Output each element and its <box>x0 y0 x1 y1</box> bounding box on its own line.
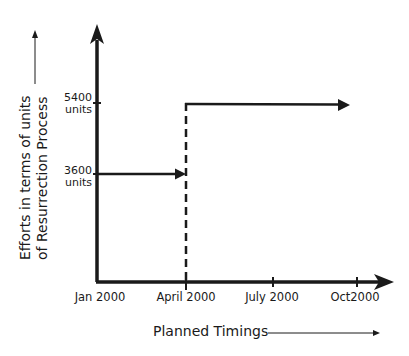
y-tick-unit-3600: units <box>65 176 92 189</box>
segment-5400-arrowhead-icon <box>338 99 350 111</box>
y-axis-title-line1: Efforts in terms of units <box>17 95 33 260</box>
step-chart: 5400 units 3600 units Jan 2000 April 200… <box>0 0 409 356</box>
series-planned-effort <box>98 99 350 282</box>
y-axis-title: Efforts in terms of units of Resurrectio… <box>17 30 50 260</box>
y-tick-labels: 5400 units 3600 units <box>64 91 92 189</box>
x-axis-title-text: Planned Timings <box>153 323 268 339</box>
x-tick-label-oct: Oct2000 <box>330 290 379 304</box>
segment-3600-arrowhead-icon <box>175 169 186 180</box>
x-tick-label-april: April 2000 <box>156 290 215 304</box>
segment-5400 <box>185 104 338 105</box>
x-axis-title-arrowhead-icon <box>373 330 380 336</box>
y-tick-unit-5400: units <box>65 103 92 116</box>
x-tick-label-july: July 2000 <box>244 290 299 304</box>
x-tick-label-jan: Jan 2000 <box>74 290 126 304</box>
x-axis-title: Planned Timings <box>153 323 380 339</box>
x-axis <box>96 274 394 290</box>
y-axis-title-arrowhead-icon <box>32 30 38 38</box>
y-axis-title-line2: of Resurrection Process <box>34 97 50 260</box>
x-tick-labels: Jan 2000 April 2000 July 2000 Oct2000 <box>74 290 380 304</box>
y-axis <box>90 24 104 282</box>
